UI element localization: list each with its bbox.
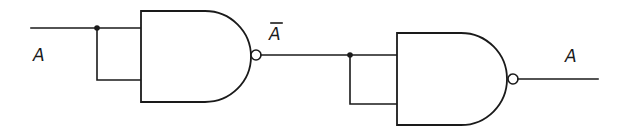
nand-gate-2 <box>397 33 518 125</box>
junction-dot-1 <box>94 25 100 31</box>
intermediate-label: A <box>268 24 281 44</box>
intermediate-wire <box>261 52 397 104</box>
inversion-bubble-1 <box>251 50 261 60</box>
nand-inverter-circuit: A A A <box>0 0 627 134</box>
input-label: A <box>32 45 45 65</box>
nand-gate-1 <box>141 11 261 102</box>
junction-dot-2 <box>347 52 353 58</box>
input-wire <box>31 25 141 80</box>
inversion-bubble-2 <box>508 74 518 84</box>
output-label: A <box>564 46 577 66</box>
